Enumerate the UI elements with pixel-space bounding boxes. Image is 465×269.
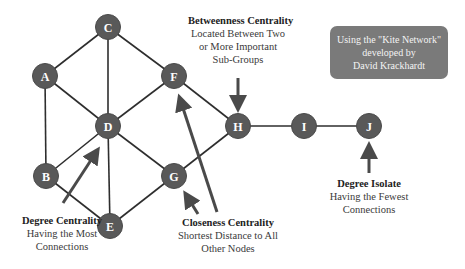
closeness-long-arrow-icon: [181, 102, 217, 212]
degree-title: Degree Centrality: [12, 214, 112, 227]
closeness-line1: Shortest Distance to All: [168, 229, 288, 242]
closeness-line2: Other Nodes: [168, 242, 288, 255]
node-label: I: [302, 120, 307, 134]
info-box-line1: Using the "Kite Network": [330, 33, 448, 46]
node-j: J: [357, 114, 382, 139]
info-box-line2: developed by: [330, 46, 448, 59]
degree-line1: Having the Most: [12, 227, 112, 240]
node-label: H: [233, 120, 243, 134]
betweenness-line2: or More Important: [188, 40, 288, 53]
degree-arrow-icon: [63, 154, 95, 203]
node-i: I: [292, 114, 317, 139]
info-box-line3: David Krackhardt: [330, 59, 448, 72]
node-h: H: [226, 114, 251, 139]
betweenness-line3: Sub-Groups: [188, 53, 288, 66]
closeness-title: Closeness Centrality: [168, 216, 288, 229]
node-label: A: [41, 70, 50, 84]
betweenness-title: Betweenness Centrality: [188, 14, 288, 27]
closeness-caption: Closeness Centrality Shortest Distance t…: [168, 216, 288, 255]
node-g: G: [162, 164, 187, 189]
node-b: B: [34, 164, 59, 189]
isolate-title: Degree Isolate: [319, 177, 419, 190]
node-label: F: [170, 70, 177, 84]
node-label: C: [104, 21, 113, 35]
node-d: D: [96, 114, 121, 139]
edge-a-b: [45, 76, 46, 176]
node-label: J: [366, 120, 372, 134]
node-label: G: [169, 170, 178, 184]
isolate-caption: Degree Isolate Having the Fewest Connect…: [319, 177, 419, 216]
node-f: F: [162, 64, 187, 89]
info-box: Using the "Kite Network" developed by Da…: [330, 26, 448, 79]
isolate-line2: Connections: [319, 203, 419, 216]
betweenness-line1: Located Between Two: [188, 27, 288, 40]
closeness-short-arrow-icon: [188, 198, 198, 214]
isolate-line1: Having the Fewest: [319, 190, 419, 203]
degree-line2: Connections: [12, 240, 112, 253]
betweenness-caption: Betweenness Centrality Located Between T…: [188, 14, 288, 66]
node-a: A: [33, 64, 58, 89]
node-c: C: [96, 15, 121, 40]
degree-caption: Degree Centrality Having the Most Connec…: [12, 214, 112, 253]
edge-d-e: [108, 126, 110, 226]
node-label: B: [42, 170, 50, 184]
node-label: D: [104, 120, 113, 134]
